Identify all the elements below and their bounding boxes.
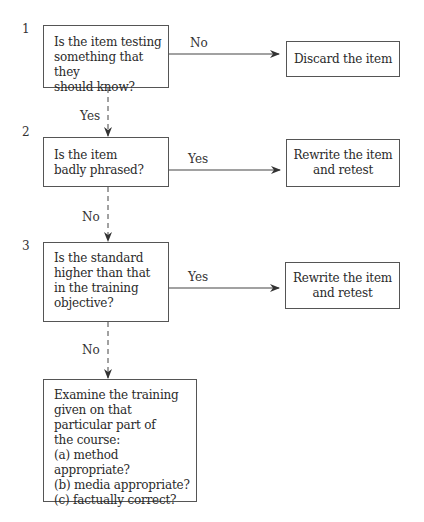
outcome-box-rewrite-1: Rewrite the item and retest: [286, 139, 400, 187]
edge-label-step1-no: No: [190, 36, 208, 50]
flowchart: 1 2 3 Is the item testing something that…: [0, 0, 424, 522]
edge-label-step3-yes: Yes: [188, 270, 208, 284]
decision-box-1: Is the item testing something that they …: [43, 25, 169, 88]
final-action-box: Examine the training given on that parti…: [43, 379, 197, 502]
outcome-text-rewrite-2: Rewrite the item and retest: [293, 271, 392, 301]
outcome-box-discard: Discard the item: [286, 41, 400, 77]
decision-text-3: Is the standard higher than that in the …: [44, 243, 168, 311]
outcome-box-rewrite-2: Rewrite the item and retest: [285, 262, 400, 309]
step-number-2: 2: [22, 125, 30, 139]
outcome-text-rewrite-1: Rewrite the item and retest: [293, 148, 392, 178]
edge-label-step2-yes: Yes: [188, 152, 208, 166]
final-action-text: Examine the training given on that parti…: [44, 380, 196, 508]
decision-box-2: Is the item badly phrased?: [43, 137, 169, 187]
decision-text-1: Is the item testing something that they …: [44, 26, 168, 95]
edge-label-step1-yes: Yes: [80, 109, 100, 123]
decision-text-2: Is the item badly phrased?: [44, 138, 168, 178]
decision-box-3: Is the standard higher than that in the …: [43, 242, 169, 322]
edge-label-step2-no: No: [82, 210, 100, 224]
step-number-3: 3: [22, 239, 30, 253]
edge-label-step3-no: No: [82, 343, 100, 357]
step-number-1: 1: [22, 22, 30, 36]
outcome-text-discard: Discard the item: [294, 52, 392, 67]
